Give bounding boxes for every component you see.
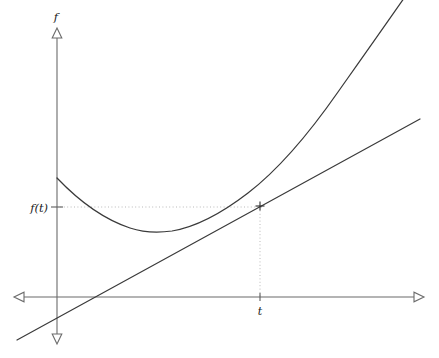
axis-ticks-group <box>51 207 260 301</box>
tangent-line <box>17 119 420 340</box>
diagram-svg: f f(t) t <box>0 0 439 358</box>
convex-function-curve <box>57 0 418 232</box>
vertical-axis-top-arrow-icon <box>52 28 62 38</box>
horizontal-axis-group <box>14 292 424 302</box>
y-tick-label-ft: f(t) <box>29 201 48 215</box>
vertical-axis-bottom-arrow-icon <box>52 334 62 344</box>
horizontal-axis-left-arrow-icon <box>14 292 24 302</box>
y-axis-label-f: f <box>53 10 60 24</box>
figure-canvas: f f(t) t <box>0 0 439 358</box>
guide-lines-group <box>57 207 262 297</box>
horizontal-axis-right-arrow-icon <box>414 292 424 302</box>
x-tick-label-t: t <box>258 305 263 318</box>
